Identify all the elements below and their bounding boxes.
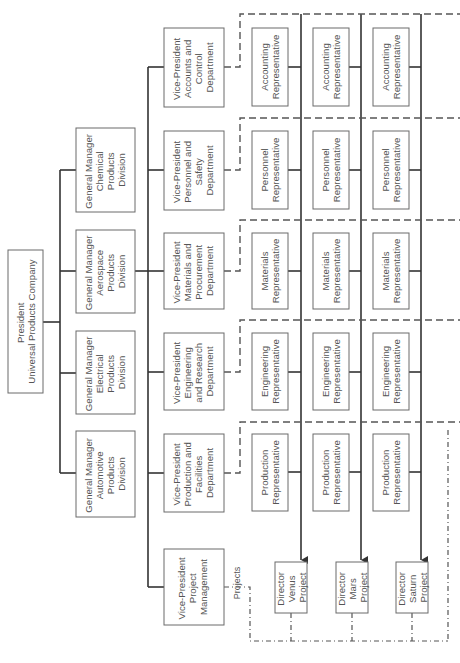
rep-engineering-3: EngineeringRepresentative [373, 333, 409, 410]
svg-text:Vice-President Engineeri: Vice-President Engineering and Research … [171, 339, 215, 404]
vp-personnel-box: Vice-President Personnel and Safety Depa… [164, 131, 224, 210]
rep-production-3: ProductionRepresentative [373, 434, 409, 511]
director-saturn-box: Director Saturn Project [396, 562, 429, 613]
rep-personnel-3: PersonnelRepresentative [373, 131, 409, 209]
vp-production-box: Vice-President Production and Facilities… [164, 434, 224, 512]
connector-lines [43, 14, 460, 641]
rep-accounting-2: AccountingRepresentative [313, 28, 349, 106]
svg-text:AccountingRepresentative: AccountingRepresentative [320, 35, 342, 100]
svg-text:AccountingRepresentative: AccountingRepresentative [259, 35, 281, 100]
svg-text:ProductionRepresentative: ProductionRepresentative [380, 440, 402, 505]
division-automotive-box: General Manager Automotive Products Divi… [76, 431, 135, 517]
rep-engineering-2: EngineeringRepresentative [313, 333, 349, 410]
svg-text:ProductionRepresentative: ProductionRepresentative [320, 440, 342, 505]
rep-personnel-2: PersonnelRepresentative [313, 131, 349, 209]
svg-text:Director Venus Pro: Director Venus Project [275, 569, 308, 605]
rep-materials-1: MaterialsRepresentative [252, 233, 288, 309]
division-aerospace-box: General Manager Aerospace Products Divis… [76, 230, 135, 313]
svg-text:EngineeringRepresentative: EngineeringRepresentative [320, 339, 342, 404]
svg-text:ProductionRepresentative: ProductionRepresentative [259, 440, 281, 505]
rep-production-1: ProductionRepresentative [252, 434, 288, 511]
org-chart: President Universal Products Company Gen… [0, 0, 460, 663]
rep-personnel-1: PersonnelRepresentative [252, 131, 288, 209]
vp-project-management-box: Vice-President Project Management [164, 549, 224, 625]
vp-engineering-box: Vice-President Engineering and Research … [164, 333, 224, 410]
rep-materials-3: MaterialsRepresentative [373, 233, 409, 309]
division-electrical-box: General Manager Electrical Products Divi… [76, 331, 135, 414]
director-mars-box: Director Mars Project [336, 562, 369, 613]
svg-text:EngineeringRepresentative: EngineeringRepresentative [259, 339, 281, 404]
svg-text:AccountingRepresentative: AccountingRepresentative [380, 35, 402, 100]
svg-text:Vice-President Materials: Vice-President Materials and Procurement… [171, 239, 215, 304]
svg-text:Director Saturn Pr: Director Saturn Project [396, 569, 429, 605]
rep-materials-2: MaterialsRepresentative [313, 233, 349, 309]
vp-accounts-box: Vice-President Accounts and Control Depa… [164, 28, 224, 107]
director-venus-box: Director Venus Project [275, 562, 308, 613]
rep-production-2: ProductionRepresentative [313, 434, 349, 511]
division-chemical-box: General Manager Chemical Products Divisi… [76, 128, 135, 212]
rep-engineering-1: EngineeringRepresentative [252, 333, 288, 410]
projects-label: Projects [232, 566, 242, 599]
president-box: President Universal Products Company [8, 250, 43, 393]
svg-text:EngineeringRepresentative: EngineeringRepresentative [380, 339, 402, 404]
rep-accounting-1: AccountingRepresentative [252, 28, 288, 106]
rep-accounting-3: AccountingRepresentative [373, 28, 409, 106]
vp-materials-box: Vice-President Materials and Procurement… [164, 233, 224, 309]
